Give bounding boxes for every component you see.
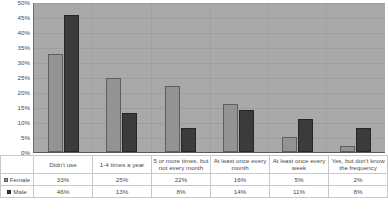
y-axis: 50% 45% 40% 35% 30% 25% 20% 15% 10% 5% 0… <box>0 0 33 156</box>
bar-male <box>356 128 371 152</box>
bar-female <box>282 137 297 152</box>
table-corner-cell <box>1 156 34 174</box>
y-axis-tick: 5% <box>21 135 30 141</box>
y-axis-tick: 40% <box>18 30 30 36</box>
bar-male <box>239 110 254 152</box>
bar-group-5-or-more-times <box>151 3 210 152</box>
legend-data-table: Didn't use 1-4 times a year 5 or more ti… <box>0 155 388 198</box>
y-axis-tick: 20% <box>18 90 30 96</box>
table-cell: 14% <box>211 185 270 197</box>
table-cell: 25% <box>93 173 152 185</box>
plot-area <box>33 3 385 153</box>
y-axis-tick: 35% <box>18 45 30 51</box>
bar-female <box>106 78 121 153</box>
bar-male <box>122 113 137 152</box>
table-cell: 2% <box>329 173 388 185</box>
table-cell: 8% <box>152 185 211 197</box>
bar-female <box>48 54 63 152</box>
bar-female <box>223 104 238 152</box>
table-header-row: Didn't use 1-4 times a year 5 or more ti… <box>1 156 388 174</box>
column-header: At least once every week <box>270 156 329 174</box>
y-axis-tick: 30% <box>18 60 30 66</box>
column-header: Yes, but don't know the frequency <box>329 156 388 174</box>
column-header: Didn't use <box>34 156 93 174</box>
bar-group-at-least-once-every-week <box>268 3 327 152</box>
y-axis-tick: 15% <box>18 105 30 111</box>
column-header: 5 or more times, but not every month <box>152 156 211 174</box>
bar-group-didnt-use <box>34 3 93 152</box>
table-cell: 11% <box>270 185 329 197</box>
data-table: Didn't use 1-4 times a year 5 or more ti… <box>0 155 387 214</box>
table-cell: 8% <box>329 185 388 197</box>
table-cell: 13% <box>93 185 152 197</box>
bar-group-1-4-times-a-year <box>93 3 152 152</box>
table-cell: 5% <box>270 173 329 185</box>
y-axis-tick: 25% <box>18 75 30 81</box>
bar-group-dont-know-frequency <box>327 3 386 152</box>
y-axis-tick: 50% <box>18 0 30 6</box>
bar-female <box>340 146 355 152</box>
bar-male <box>298 119 313 152</box>
legend-swatch-male-icon <box>7 190 11 194</box>
column-header: At least once every month <box>211 156 270 174</box>
legend-label-female: Female <box>10 176 31 183</box>
bar-female <box>165 86 180 152</box>
table-row: Male 46% 13% 8% 14% 11% 8% <box>1 185 388 197</box>
y-axis-tick: 45% <box>18 15 30 21</box>
bar-male <box>181 128 196 152</box>
table-row: Female 33% 25% 22% 16% 5% 2% <box>1 173 388 185</box>
bars-layer <box>34 3 385 152</box>
legend-swatch-female-icon <box>4 178 8 182</box>
y-axis-tick: 10% <box>18 120 30 126</box>
table-cell: 22% <box>152 173 211 185</box>
column-header: 1-4 times a year <box>93 156 152 174</box>
legend-label-male: Male <box>13 188 26 195</box>
table-cell: 16% <box>211 173 270 185</box>
legend-item-female: Female <box>1 173 34 185</box>
table-cell: 46% <box>34 185 93 197</box>
bar-group-at-least-once-every-month <box>210 3 269 152</box>
table-cell: 33% <box>34 173 93 185</box>
bar-male <box>64 15 79 152</box>
legend-item-male: Male <box>1 185 34 197</box>
plot-region: 50% 45% 40% 35% 30% 25% 20% 15% 10% 5% 0… <box>0 0 387 156</box>
